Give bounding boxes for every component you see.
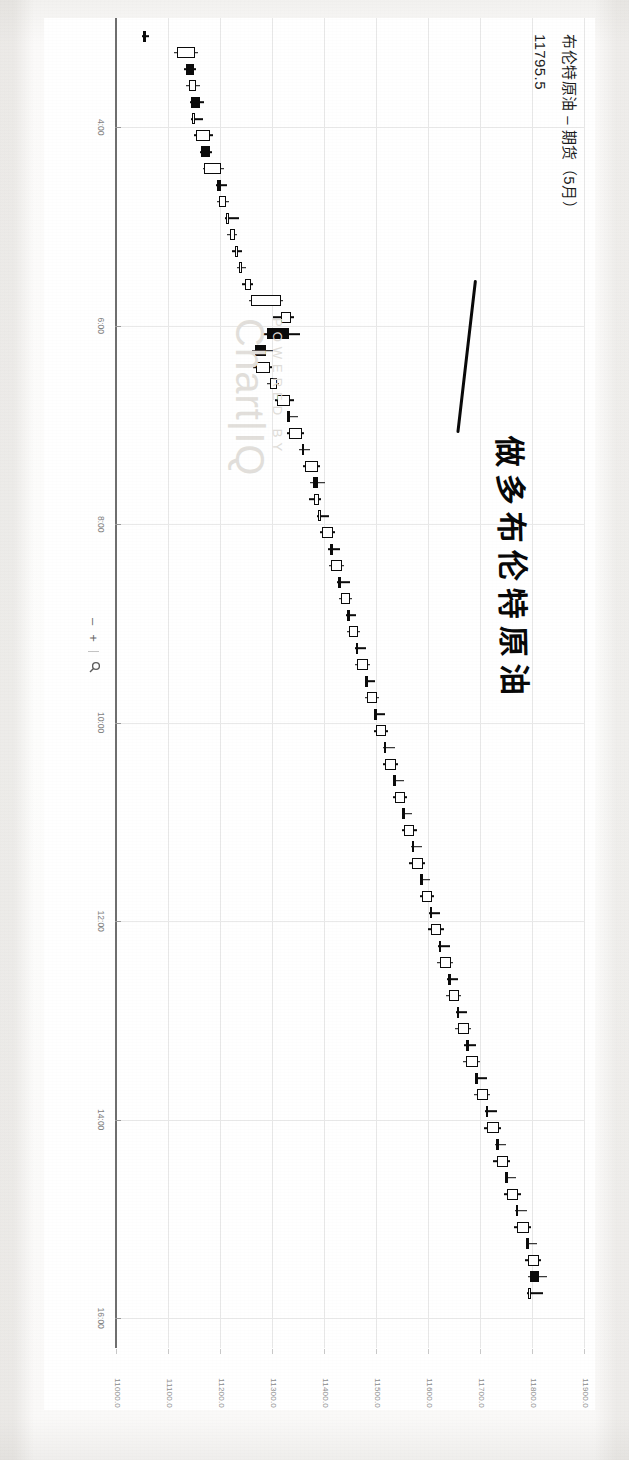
candlestick [117, 626, 585, 637]
time-axis-label: 10:00 [96, 712, 106, 733]
zoom-out-button[interactable]: – [88, 618, 101, 625]
price-axis-tick [480, 1349, 481, 1354]
candle-body-down [475, 1073, 478, 1084]
candlestick [117, 196, 585, 207]
grid-line-vertical [117, 1120, 585, 1121]
candlestick [117, 130, 585, 141]
candle-body-up [466, 1056, 477, 1067]
candle-body-up [528, 1255, 539, 1266]
candlestick [117, 246, 585, 257]
candle-body-down [374, 709, 377, 720]
candlestick [117, 1288, 585, 1299]
candle-body-up [440, 957, 450, 968]
candlestick [117, 477, 585, 488]
price-axis: 11900.011800.011700.011600.011500.011400… [117, 1348, 585, 1410]
price-axis-tick [376, 1349, 377, 1354]
price-axis-tick [116, 1349, 117, 1354]
price-axis-label: 11800.0 [529, 1378, 538, 1408]
candle-body-up [458, 1023, 468, 1034]
candlestick [117, 610, 585, 621]
candlestick [117, 1222, 585, 1233]
candle-body-down [496, 1139, 499, 1150]
candle-body-down [143, 31, 146, 42]
candle-body-down [217, 180, 221, 191]
time-axis-tick [115, 1120, 121, 1121]
candle-body-up [281, 312, 291, 323]
candlestick [117, 643, 585, 654]
candlestick [117, 709, 585, 720]
candle-body-up [477, 1089, 488, 1100]
magnifier-icon[interactable] [87, 661, 101, 673]
candlestick [117, 759, 585, 770]
candle-body-up [357, 659, 367, 670]
candlestick [117, 328, 585, 339]
candle-body-up [239, 262, 242, 273]
candle-body-up [341, 593, 350, 604]
candle-body-down [505, 1172, 508, 1183]
candle-body-down [403, 808, 406, 819]
candlestick [117, 1139, 585, 1150]
candle-body-up [305, 461, 317, 472]
candle-body-up [277, 395, 289, 406]
candle-body-down [420, 874, 423, 885]
candle-body-up [245, 279, 251, 290]
grid-line-vertical [117, 326, 585, 327]
zoom-controls[interactable]: – + [87, 618, 101, 673]
candlestick [117, 163, 585, 174]
candlestick [117, 411, 585, 422]
time-axis-label: 4:00 [96, 119, 106, 136]
candlestick [117, 974, 585, 985]
candle-body-down [430, 907, 433, 918]
candlestick [117, 229, 585, 240]
candlestick [117, 1122, 585, 1133]
price-axis-tick [428, 1349, 429, 1354]
plot-area[interactable]: POWERED BY Chart|IQ [117, 18, 585, 1348]
price-axis-label: 11400.0 [321, 1378, 330, 1408]
candlestick [117, 279, 585, 290]
time-axis-label: 14:00 [96, 1109, 106, 1130]
candlestick [117, 1023, 585, 1034]
candlestick [117, 676, 585, 687]
candlestick [117, 31, 585, 42]
zoom-in-button[interactable]: + [88, 634, 101, 642]
candlestick [117, 213, 585, 224]
candle-body-up [251, 295, 281, 306]
candle-body-down [365, 676, 368, 687]
chart-card: 布伦特原油 – 期货（5月） 11795.5 POWERED BY Chart|… [44, 18, 595, 1410]
candle-body-up [404, 825, 414, 836]
candle-body-up [196, 130, 210, 141]
candlestick [117, 494, 585, 505]
candlestick [117, 544, 585, 555]
candle-body-up [289, 428, 303, 439]
candlestick [117, 510, 585, 521]
candle-body-up [395, 792, 405, 803]
candle-body-up [487, 1122, 498, 1133]
candle-body-down [530, 1271, 539, 1282]
candle-body-up [385, 759, 395, 770]
candlestick [117, 577, 585, 588]
candlestick [117, 825, 585, 836]
candlestick [117, 444, 585, 455]
candlestick [117, 527, 585, 538]
time-axis-tick [115, 326, 121, 327]
candle-body-up [314, 494, 319, 505]
time-axis-tick [115, 1318, 121, 1319]
candlestick [117, 1172, 585, 1183]
candle-body-up [376, 725, 386, 736]
price-axis-label: 11100.0 [165, 1379, 174, 1408]
candle-body-down [384, 742, 387, 753]
candlestick [117, 808, 585, 819]
candle-body-up [226, 213, 229, 224]
candle-body-up [192, 113, 195, 124]
candle-body-up [517, 1222, 528, 1233]
price-axis-tick [584, 1349, 585, 1354]
candlestick [117, 180, 585, 191]
scanned-page: 布伦特原油 – 期货（5月） 11795.5 POWERED BY Chart|… [0, 0, 629, 1460]
candle-body-down [186, 64, 194, 75]
candle-body-up [189, 80, 196, 91]
candlestick [117, 312, 585, 323]
candle-body-down [516, 1205, 519, 1216]
price-axis-tick [324, 1349, 325, 1354]
candle-body-up [349, 626, 358, 637]
candle-body-down [486, 1106, 489, 1117]
